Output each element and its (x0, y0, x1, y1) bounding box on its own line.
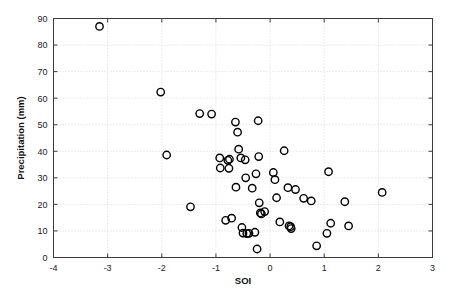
y-tick-label: 10 (37, 226, 47, 236)
x-tick-label: 3 (430, 263, 435, 273)
scatter-plot-figure: -4-3-2-10123 0102030405060708090 SOI Pre… (0, 0, 449, 296)
x-tick-label: 1 (322, 263, 327, 273)
y-axis-title: Precipitation (mm) (15, 96, 26, 179)
x-tick-label: -4 (49, 263, 57, 273)
y-tick-label: 40 (37, 147, 47, 157)
y-tick-label: 70 (37, 67, 47, 77)
figure-background (0, 0, 449, 296)
y-tick-label: 60 (37, 94, 47, 104)
y-tick-label: 50 (37, 120, 47, 130)
x-tick-label: 0 (268, 263, 273, 273)
x-axis-title: SOI (235, 275, 251, 286)
y-tick-label: 90 (37, 14, 47, 24)
chart-canvas: -4-3-2-10123 0102030405060708090 SOI Pre… (0, 0, 449, 296)
y-tick-label: 20 (37, 200, 47, 210)
x-tick-label: -1 (212, 263, 220, 273)
y-tick-label: 0 (42, 253, 47, 263)
x-tick-label: -3 (104, 263, 112, 273)
y-tick-label: 30 (37, 173, 47, 183)
x-tick-label: -2 (158, 263, 166, 273)
y-tick-label: 80 (37, 40, 47, 50)
x-tick-label: 2 (376, 263, 381, 273)
